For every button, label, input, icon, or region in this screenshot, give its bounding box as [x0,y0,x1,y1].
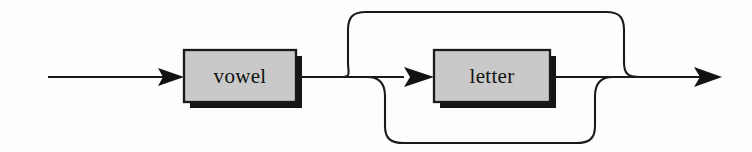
letter-arrow-icon [404,67,434,87]
railroad-diagram-canvas: vowel letter [0,0,752,152]
vowel-node-label: vowel [214,64,267,88]
railroad-diagram: vowel letter [0,0,752,152]
letter-node-label: letter [470,64,515,88]
